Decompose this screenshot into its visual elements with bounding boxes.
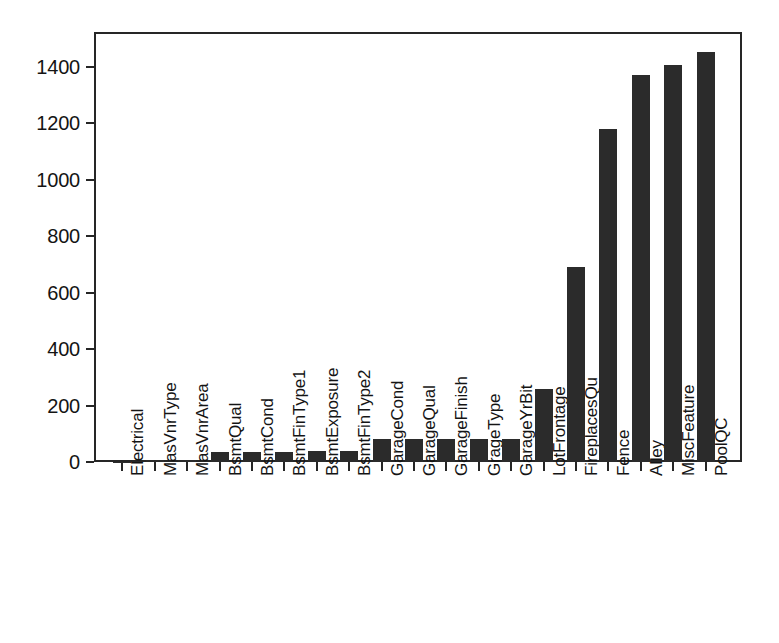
x-axis-tick [316, 462, 318, 471]
y-axis-tick-label: 800 [47, 226, 80, 246]
x-axis-tick [154, 462, 156, 471]
bar [178, 460, 196, 462]
bar [308, 451, 326, 462]
bar [211, 452, 229, 462]
y-axis-tick [86, 405, 94, 407]
bar [502, 439, 520, 462]
bar [405, 439, 423, 462]
y-axis-tick [86, 348, 94, 350]
x-axis-tick [640, 462, 642, 471]
y-axis-tick [86, 461, 94, 463]
x-axis-tick [445, 462, 447, 471]
bar [146, 460, 164, 462]
x-axis-tick [283, 462, 285, 471]
bar [664, 65, 682, 462]
y-axis-tick [86, 292, 94, 294]
bar [275, 452, 293, 462]
x-axis-tick [219, 462, 221, 471]
y-axis-tick [86, 235, 94, 237]
x-axis-tick [672, 462, 674, 471]
bar [632, 75, 650, 462]
bar [243, 452, 261, 462]
bar [437, 439, 455, 462]
x-axis-tick [543, 462, 545, 471]
y-axis-tick [86, 66, 94, 68]
x-axis-tick [510, 462, 512, 471]
y-axis-tick-label: 0 [69, 452, 80, 472]
bar [567, 267, 585, 462]
bar [697, 52, 715, 462]
x-axis-tick [607, 462, 609, 471]
x-axis-tick [121, 462, 123, 471]
y-axis-tick-label: 1000 [36, 170, 80, 190]
x-axis-tick [186, 462, 188, 471]
x-axis-tick [348, 462, 350, 471]
y-axis-tick [86, 179, 94, 181]
y-axis-tick-label: 400 [47, 339, 80, 359]
x-axis-tick [478, 462, 480, 471]
x-axis-tick [575, 462, 577, 471]
x-axis-tick [705, 462, 707, 471]
bars-layer [94, 32, 742, 462]
y-axis-tick-label: 1400 [36, 57, 80, 77]
bar-chart-figure: 0200400600800100012001400 ElectricalMasV… [0, 0, 779, 643]
bar [470, 439, 488, 462]
bar [599, 129, 617, 462]
bar [340, 451, 358, 462]
x-axis-tick [413, 462, 415, 471]
bar [373, 439, 391, 462]
y-axis-tick-label: 1200 [36, 113, 80, 133]
bar [535, 389, 553, 462]
y-axis-tick [86, 122, 94, 124]
x-axis-tick [251, 462, 253, 471]
y-axis-tick-label: 200 [47, 396, 80, 416]
y-axis-tick-label: 600 [47, 283, 80, 303]
x-axis-tick [381, 462, 383, 471]
